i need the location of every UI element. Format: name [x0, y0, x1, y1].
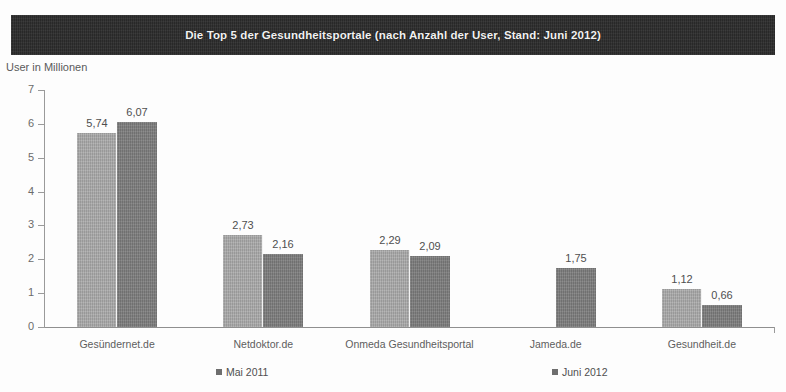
bar-fill	[370, 250, 410, 328]
bar-fill	[263, 254, 303, 327]
y-axis-tick-label: 3	[4, 219, 34, 230]
y-axis-tick-value: 4	[8, 186, 34, 197]
bar-fill	[556, 268, 596, 327]
bar-juni-2012[interactable]: 2,09	[410, 256, 450, 327]
bar-fill	[410, 256, 450, 327]
chart-plot-area: 76543210 5,746,072,732,162,292,091,751,1…	[0, 0, 786, 392]
bar-fill	[702, 305, 742, 327]
legend-swatch-icon	[552, 369, 558, 375]
bar-mai-2011[interactable]: 2,29	[370, 250, 410, 328]
y-axis-tick	[38, 259, 45, 260]
category-label: Gesundheit.de	[612, 338, 786, 350]
legend-item-juni-2012: Juni 2012	[552, 366, 608, 378]
y-axis-tick	[38, 158, 45, 159]
x-axis-end-tick	[774, 327, 775, 333]
bar-value-label: 2,09	[402, 240, 458, 252]
bar-fill	[117, 122, 157, 328]
legend-label-juni-2012: Juni 2012	[562, 366, 608, 378]
y-axis-tick-label: 6	[4, 118, 34, 129]
y-axis-tick	[38, 225, 45, 226]
bar-value-label: 2,16	[255, 238, 311, 250]
legend-label-mai-2011: Mai 2011	[226, 366, 268, 378]
y-axis-tick	[38, 192, 45, 193]
bar-fill	[77, 133, 117, 327]
bar-juni-2012[interactable]: 1,75	[556, 268, 596, 327]
bar-value-label: 1,12	[654, 273, 710, 285]
y-axis-tick-value: 6	[8, 118, 34, 129]
y-axis-tick-value: 3	[8, 219, 34, 230]
y-axis-tick-label: 2	[4, 253, 34, 264]
legend-item-mai-2011: Mai 2011	[216, 366, 268, 378]
y-axis-tick-value: 2	[8, 253, 34, 264]
bar-juni-2012[interactable]: 2,16	[263, 254, 303, 327]
bar-juni-2012[interactable]: 6,07	[117, 122, 157, 328]
y-axis-tick-value: 5	[8, 152, 34, 163]
y-axis-tick-label: 5	[4, 152, 34, 163]
bar-value-label: 0,66	[694, 289, 750, 301]
y-axis-tick-label: 7	[4, 84, 34, 95]
y-axis-tick	[38, 327, 45, 328]
y-axis-tick-label: 0	[4, 321, 34, 332]
y-axis-tick	[38, 124, 45, 125]
x-axis-line	[44, 327, 775, 328]
y-axis-tick-label: 1	[4, 287, 34, 298]
y-axis-tick	[38, 293, 45, 294]
legend-swatch-icon	[216, 369, 222, 375]
bar-value-label: 2,73	[215, 219, 271, 231]
bar-mai-2011[interactable]: 5,74	[77, 133, 117, 327]
y-axis-tick	[38, 90, 45, 91]
y-axis-tick-value: 7	[8, 84, 34, 95]
bar-juni-2012[interactable]: 0,66	[702, 305, 742, 327]
y-axis-tick-label: 4	[4, 186, 34, 197]
bar-value-label: 1,75	[548, 252, 604, 264]
y-axis-tick-value: 0	[8, 321, 34, 332]
y-axis-tick-value: 1	[8, 287, 34, 298]
bar-value-label: 6,07	[109, 106, 165, 118]
